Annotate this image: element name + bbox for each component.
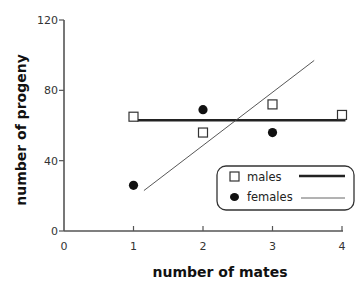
scatter-chart: 04080120 01234 number of mates number of…: [0, 0, 363, 295]
y-tick-label: 120: [37, 14, 58, 27]
x-axis-label: number of mates: [153, 264, 288, 280]
x-tick-label: 4: [339, 240, 346, 253]
y-ticks: 04080120: [37, 14, 64, 238]
males-point: [129, 112, 138, 121]
x-tick-label: 2: [200, 240, 207, 253]
x-tick-label: 3: [269, 240, 276, 253]
x-tick-label: 1: [130, 240, 137, 253]
y-tick-label: 40: [44, 155, 58, 168]
males-point: [268, 100, 277, 109]
males-marker-icon: [230, 172, 239, 181]
y-axis-label: number of progeny: [13, 54, 29, 206]
females-point: [129, 181, 138, 190]
females-point: [198, 105, 207, 114]
legend: males females: [217, 166, 354, 210]
males-point: [338, 110, 347, 119]
y-tick-label: 0: [51, 225, 58, 238]
x-ticks: 01234: [61, 226, 346, 253]
males-point: [199, 128, 208, 137]
y-tick-label: 80: [44, 84, 58, 97]
legend-label-females: females: [247, 190, 293, 204]
females-marker-icon: [230, 193, 239, 201]
females-point: [268, 128, 277, 137]
legend-label-males: males: [247, 170, 282, 184]
x-tick-label: 0: [61, 240, 68, 253]
